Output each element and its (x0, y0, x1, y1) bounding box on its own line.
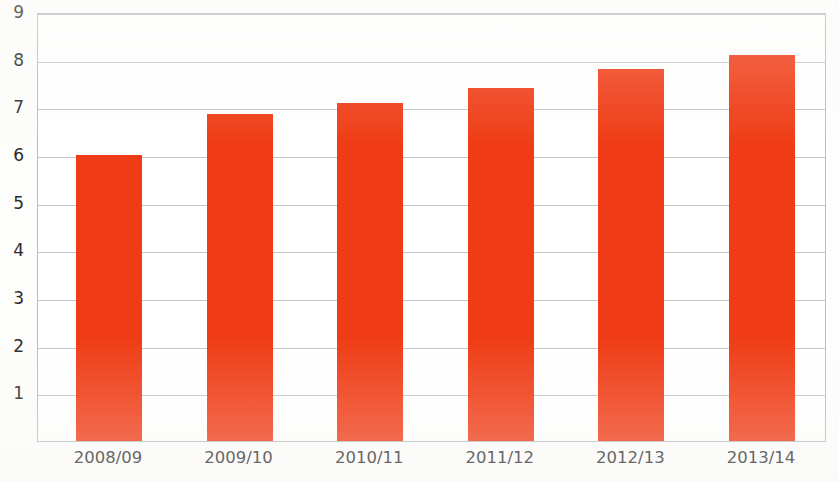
bar-2012-13 (598, 69, 664, 441)
bar-2009-10 (207, 114, 273, 441)
bar-2010-11 (337, 103, 403, 441)
y-tick-label: 1 (13, 385, 24, 402)
x-tick-label: 2011/12 (440, 448, 560, 467)
x-axis: 2008/092009/102010/112011/122012/132013/… (37, 448, 826, 476)
y-axis: 987654321 (0, 0, 33, 482)
bar-chart: 987654321 2008/092009/102010/112011/1220… (0, 0, 839, 482)
y-tick-label: 8 (13, 52, 24, 69)
y-tick-label: 7 (13, 99, 24, 116)
bar-2008-09 (76, 155, 142, 441)
plot-area (37, 13, 826, 442)
y-tick-label: 9 (13, 4, 24, 21)
x-tick-label: 2012/13 (570, 448, 690, 467)
x-tick-label: 2008/09 (48, 448, 168, 467)
bar-2013-14 (729, 55, 795, 441)
bars-group (38, 14, 825, 441)
y-tick-label: 2 (13, 338, 24, 355)
x-tick-label: 2010/11 (309, 448, 429, 467)
x-tick-label: 2013/14 (701, 448, 821, 467)
bar-2011-12 (468, 88, 534, 441)
x-tick-label: 2009/10 (179, 448, 299, 467)
y-tick-label: 5 (13, 195, 24, 212)
y-tick-label: 6 (13, 147, 24, 164)
y-tick-label: 3 (13, 290, 24, 307)
y-tick-label: 4 (13, 242, 24, 259)
